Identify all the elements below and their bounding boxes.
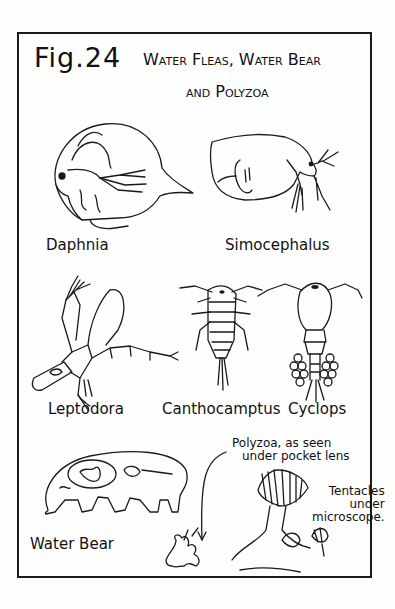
figure-prefix: Fig. xyxy=(34,42,85,73)
figure-number-value: 24 xyxy=(85,42,121,73)
figure-number: Fig.24 xyxy=(34,42,121,73)
label-canthocamptus: Canthocamptus xyxy=(162,400,281,418)
polyzoa-caption: Polyzoa, as seen under pocket lens xyxy=(232,437,350,463)
label-simocephalus: Simocephalus xyxy=(225,236,330,254)
polyzoa-caption-line-2: under pocket lens xyxy=(232,450,350,463)
label-water-bear: Water Bear xyxy=(30,535,114,553)
tentacles-caption: Tentacles under microscope. xyxy=(312,485,385,524)
figure-title-line-1: Water Fleas, Water Bear xyxy=(143,50,321,69)
label-leptodora: Leptodora xyxy=(48,400,124,418)
label-cyclops: Cyclops xyxy=(288,400,346,418)
figure-title-line-2: and Polyzoa xyxy=(186,82,269,101)
tentacles-caption-line-3: microscope. xyxy=(312,511,385,524)
label-daphnia: Daphnia xyxy=(46,236,109,254)
